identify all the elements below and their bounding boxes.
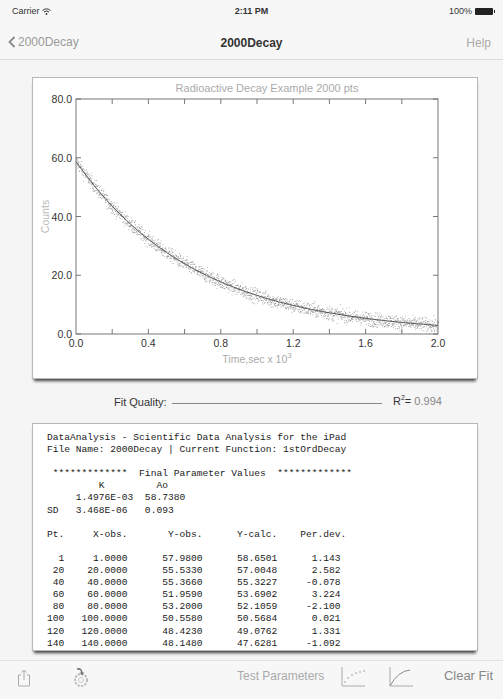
clear-fit-button[interactable]: Clear Fit	[444, 668, 493, 683]
test-parameters-button[interactable]: Test Parameters	[237, 669, 324, 683]
results-panel[interactable]: DataAnalysis - Scientific Data Analysis …	[32, 423, 478, 651]
y-axis-label: Counts	[39, 200, 51, 233]
x-tick-label: 1.2	[286, 337, 301, 349]
x-axis-label: Time,sec x 103	[222, 351, 292, 365]
y-tick-label: 80.0	[52, 93, 73, 105]
share-button[interactable]	[17, 669, 31, 691]
x-tick-label: 2.0	[431, 337, 446, 349]
y-tick-label: 60.0	[52, 152, 73, 164]
page-title: 2000Decay	[0, 36, 503, 50]
y-tick-label: 20.0	[52, 269, 73, 281]
x-tick-label: 0.0	[69, 337, 84, 349]
data-points	[76, 158, 439, 334]
scatter-points	[76, 158, 439, 334]
y-tick-label: 40.0	[52, 211, 73, 223]
r2-label: R	[393, 395, 401, 407]
scatter-plot-icon	[340, 674, 366, 691]
gear-arrow-icon	[72, 675, 90, 692]
x-tick-label: 0.4	[141, 337, 156, 349]
fit-quality-row: Fit Quality: R2= 0.994	[0, 394, 503, 412]
x-tick-label: 0.8	[213, 337, 228, 349]
r-squared: R2= 0.994	[393, 394, 442, 407]
results-text: DataAnalysis - Scientific Data Analysis …	[47, 432, 352, 650]
fit-quality-label: Fit Quality:	[114, 396, 167, 408]
scatter-plot-button[interactable]	[340, 666, 366, 692]
status-bar: Carrier 2:11 PM 100%	[0, 0, 503, 20]
chart-title: Radioactive Decay Example 2000 pts	[176, 82, 359, 94]
r2-value: 0.994	[414, 395, 442, 407]
bottom-toolbar: Test Parameters Clear Fit	[0, 660, 503, 699]
share-icon	[17, 673, 31, 690]
navigation-bar: 2000Decay 2000Decay Help	[0, 20, 503, 60]
chart-panel[interactable]: Radioactive Decay Example 2000 pts0.020.…	[32, 77, 478, 379]
battery-icon	[475, 8, 493, 15]
curve-fit-icon	[388, 674, 414, 691]
clock: 2:11 PM	[0, 6, 503, 16]
battery-indicator: 100%	[449, 6, 493, 16]
decay-chart: Radioactive Decay Example 2000 pts0.020.…	[33, 78, 479, 380]
x-tick-label: 1.6	[358, 337, 373, 349]
help-button[interactable]: Help	[466, 36, 491, 50]
fit-curve	[76, 162, 438, 326]
fit-quality-bar	[172, 403, 382, 404]
curve-fit-button[interactable]	[388, 666, 414, 692]
battery-percent: 100%	[449, 6, 472, 16]
r2-equals: =	[405, 395, 414, 407]
settings-button[interactable]	[72, 667, 90, 693]
